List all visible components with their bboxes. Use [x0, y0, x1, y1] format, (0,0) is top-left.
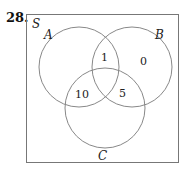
region-a-and-b: 1 — [101, 51, 108, 64]
set-b-label: B — [154, 28, 164, 42]
universe-label: S — [32, 17, 40, 31]
region-b-only: 0 — [140, 55, 147, 68]
set-c-label: C — [98, 149, 107, 163]
venn-diagram: S A B C 1 0 10 5 — [0, 0, 187, 171]
set-a-label: A — [43, 28, 53, 42]
region-b-and-c: 5 — [119, 87, 126, 100]
set-c-circle — [65, 68, 145, 148]
region-a-and-c: 10 — [75, 88, 89, 101]
